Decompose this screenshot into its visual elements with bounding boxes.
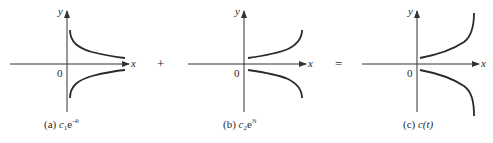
panel-b-graph	[188, 11, 306, 112]
panel-c-lower-curve	[420, 70, 474, 116]
panel-b-y-label: y	[235, 5, 240, 17]
plus-operator: +	[157, 56, 164, 72]
panel-c-caption: (c) c(t)	[403, 118, 433, 130]
panel-c-graph	[362, 11, 479, 116]
panel-a-y-label: y	[58, 5, 63, 17]
panel-b-upper-curve	[248, 30, 302, 58]
panel-a-graph	[10, 11, 129, 112]
panel-c-upper-curve	[420, 13, 474, 58]
panel-c-x-label: x	[481, 57, 486, 69]
panel-b-caption: (b) c2e3t	[223, 118, 257, 132]
equals-operator: =	[335, 56, 342, 72]
panel-a-lower-curve	[70, 70, 125, 98]
panel-c-origin-label: 0	[407, 67, 413, 79]
panel-b-x-label: x	[308, 57, 313, 69]
panel-b-lower-curve	[248, 70, 302, 98]
panel-a-origin-label: 0	[57, 67, 63, 79]
panel-a-upper-curve	[70, 30, 125, 58]
panel-b-origin-label: 0	[234, 67, 240, 79]
panel-a-x-label: x	[131, 57, 136, 69]
panel-a-caption: (a) c1e-4t	[44, 118, 79, 132]
panel-c-y-label: y	[408, 5, 413, 17]
